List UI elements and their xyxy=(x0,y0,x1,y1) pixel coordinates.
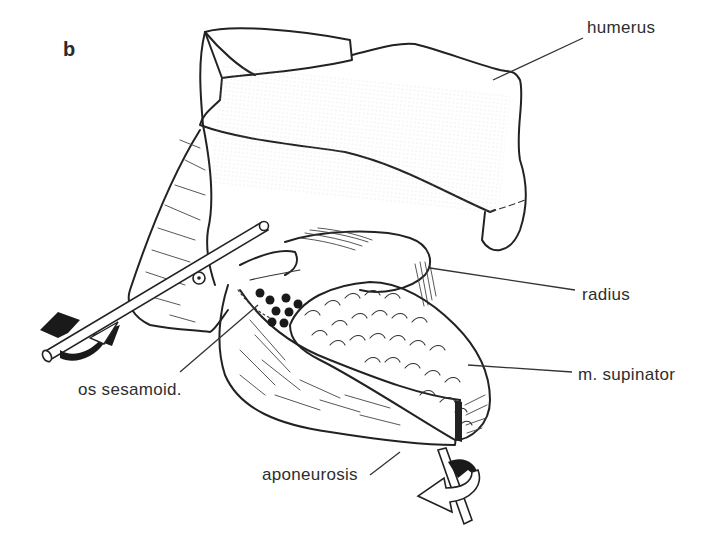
sesamoid-dots xyxy=(256,289,303,328)
humerus-shape xyxy=(200,28,526,285)
anatomical-figure: b humerus radius m. supinator os sesamoi… xyxy=(0,0,727,553)
label-aponeurosis: aponeurosis xyxy=(262,465,358,485)
drawing xyxy=(0,0,727,553)
label-radius: radius xyxy=(582,285,630,305)
probe-rod xyxy=(41,222,269,364)
leader-radius xyxy=(430,268,575,290)
rotation-arrow-icon-bottom xyxy=(418,448,479,524)
label-humerus: humerus xyxy=(587,18,655,38)
leader-sesamoid xyxy=(180,305,258,372)
label-os-sesamoid: os sesamoid. xyxy=(78,380,182,400)
panel-label: b xyxy=(63,38,75,61)
label-m-supinator: m. supinator xyxy=(578,365,675,385)
radius-shape xyxy=(240,228,436,306)
leader-aponeurosis xyxy=(370,452,400,475)
supinator-shape xyxy=(290,282,490,442)
leader-humerus xyxy=(493,38,583,80)
